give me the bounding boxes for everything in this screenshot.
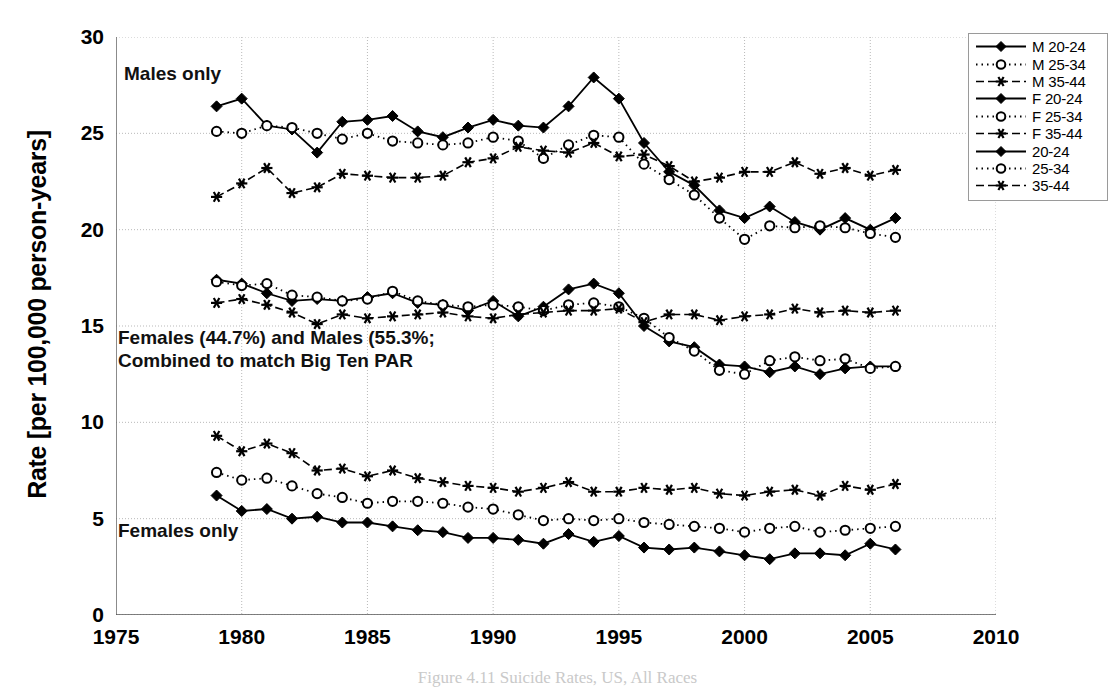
chart-legend: M 20-24M 25-34M 35-44F 20-24F 25-34F 35-… [968,33,1108,201]
figure-root: Rate [per 100,000 person-years] 05101520… [0,0,1115,691]
legend-symbol-solid-diamond [973,90,1029,107]
x-tick-label: 1995 [579,625,659,649]
legend-symbol-solid-diamond [973,143,1029,160]
legend-label: 20-24 [1029,143,1069,160]
x-tick-label: 2005 [830,625,910,649]
x-tick-label: 1990 [453,625,533,649]
legend-item: F 20-24 [973,90,1103,107]
x-tick-label: 1985 [327,625,407,649]
annotation-females-only: Females only [118,519,238,542]
annotation-combined: Females (44.7%) and Males (55.3%; Combin… [118,326,435,372]
legend-symbol-dotted-circle [973,108,1029,125]
series-m-35-44 [211,138,901,202]
legend-label: F 20-24 [1029,90,1082,107]
legend-item: 35-44 [973,177,1103,194]
legend-item: F 25-34 [973,108,1103,125]
figure-caption: Figure 4.11 Suicide Rates, US, All Races [0,668,1115,688]
legend-symbol-dotted-circle [973,160,1029,177]
legend-label: 35-44 [1029,177,1069,194]
legend-label: F 25-34 [1029,108,1082,125]
legend-item: M 25-34 [973,55,1103,72]
y-tick-label: 15 [42,314,104,338]
y-tick-label: 10 [42,410,104,434]
x-tick-label: 1980 [202,625,282,649]
legend-item: 25-34 [973,160,1103,177]
legend-item: F 35-44 [973,125,1103,142]
annotation-males-only: Males only [124,62,221,85]
legend-symbol-solid-diamond [973,38,1029,55]
legend-symbol-dashed-star [973,177,1029,194]
legend-symbol-dotted-circle [973,56,1029,73]
legend-symbol-dashed-star [973,125,1029,142]
legend-label: M 35-44 [1029,73,1086,90]
x-tick-label: 1975 [76,625,156,649]
legend-label: M 25-34 [1029,56,1086,73]
x-tick-label: 2000 [705,625,785,649]
y-tick-label: 20 [42,218,104,242]
x-tick-label: 2010 [956,625,1036,649]
legend-item: 20-24 [973,142,1103,159]
legend-item: M 35-44 [973,73,1103,90]
series-m-20-24 [211,72,901,235]
y-tick-label: 0 [42,603,104,627]
y-tick-label: 25 [42,121,104,145]
legend-item: M 20-24 [973,38,1103,55]
series-f-25-34 [212,468,900,537]
y-tick-label: 5 [42,507,104,531]
legend-symbol-dashed-star [973,73,1029,90]
legend-label: F 35-44 [1029,125,1082,142]
legend-label: 25-34 [1029,160,1069,177]
y-tick-label: 30 [42,25,104,49]
legend-label: M 20-24 [1029,38,1086,55]
